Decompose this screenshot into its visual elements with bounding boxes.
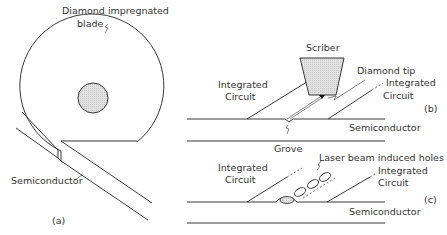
label-semiconductor-a: Semiconductor — [11, 175, 83, 186]
label-blade-line2: blade — [77, 18, 104, 29]
label-panel-a: (a) — [52, 215, 65, 226]
label-panel-b: (b) — [424, 103, 437, 114]
label-ic-left-b-1: Integrated — [218, 79, 268, 90]
surface-hole — [280, 197, 294, 204]
label-ic-left-c-1: Integrated — [218, 162, 268, 173]
label-ic-right-c-2: Circuit — [378, 177, 409, 188]
grove — [285, 119, 293, 122]
panel-b: Scriber Diamond tip Integrated Circuit I… — [187, 42, 437, 154]
label-panel-c: (c) — [424, 194, 437, 205]
laser-hole-1 — [293, 186, 307, 198]
label-blade-line1: Diamond impregnated — [62, 5, 169, 16]
wafer-dicing-diagram: Diamond impregnated blade Semiconductor … — [0, 0, 447, 235]
label-semiconductor-c: Semiconductor — [349, 206, 421, 217]
scriber — [300, 58, 344, 95]
diamond-blade — [20, 14, 164, 151]
label-ic-right-b-1: Integrated — [386, 77, 436, 88]
label-ic-right-b-2: Circuit — [383, 90, 414, 101]
blade-hub — [78, 83, 108, 113]
label-ic-right-c-1: Integrated — [378, 165, 428, 176]
label-ic-left-c-2: Circuit — [225, 174, 256, 185]
label-laser-holes: Laser beam induced holes — [319, 152, 444, 163]
panel-a: Diamond impregnated blade Semiconductor … — [11, 5, 169, 226]
label-scriber: Scriber — [306, 42, 340, 53]
label-diamond-tip: Diamond tip — [357, 65, 415, 76]
panel-c: Integrated Circuit Laser beam induced ho… — [187, 152, 444, 223]
laser-hole-3 — [318, 171, 332, 183]
label-ic-left-b-2: Circuit — [225, 91, 256, 102]
label-semiconductor-b: Semiconductor — [349, 122, 421, 133]
semiconductor-slab-a — [16, 112, 152, 220]
label-grove: Grove — [274, 143, 302, 154]
laser-hole-2 — [306, 178, 320, 190]
